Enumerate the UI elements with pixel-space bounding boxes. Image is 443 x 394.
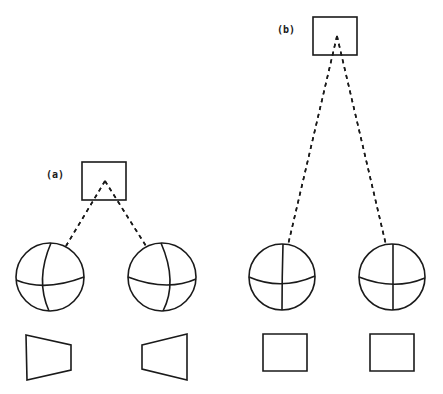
group-b-projection-rectangle-2 (370, 334, 414, 371)
group-b-dashed-line-inner-1 (288, 36, 337, 245)
group-a-projection-trapezoid-2 (142, 334, 187, 380)
group-a-dashed-line-inner-1 (66, 181, 105, 246)
group-a-sphere-1 (16, 243, 84, 311)
group-a-sphere-2-equator (128, 277, 196, 285)
group-a-projection-trapezoid-1 (26, 335, 71, 380)
group-a-sphere-1-equator (16, 277, 84, 285)
group-a-sphere-2-meridian (161, 243, 170, 311)
group-b-sphere-2 (359, 244, 425, 310)
group-b-projection-rectangle-1 (263, 334, 307, 371)
group-a-label: (a) (46, 169, 64, 180)
group-a-sphere-1-meridian (42, 243, 51, 311)
group-b-dashed-line-inner-2 (337, 36, 386, 245)
group-a-source-box (82, 162, 126, 200)
group-b-label: (b) (277, 24, 295, 35)
group-a-sphere-2 (128, 243, 196, 311)
group-b-source-box (313, 17, 357, 55)
diagram-canvas (0, 0, 443, 394)
group-b-sphere-2-equator (359, 277, 425, 284)
group-b-sphere-1-meridian (282, 244, 283, 310)
